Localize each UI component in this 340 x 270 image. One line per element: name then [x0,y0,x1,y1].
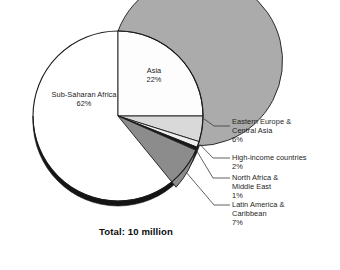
slice-label-eastern-europe-line2: Central Asia [232,126,272,135]
slice-label-sub-saharan-africa-pct: 62% [32,99,136,108]
slice-label-latin-america-line2: Caribbean [232,209,267,218]
slice-label-high-income-pct: 2% [232,162,307,171]
slice-label-north-africa-line1: North Africa & [232,173,278,182]
slice-label-latin-america-line1: Latin America & [232,200,285,209]
pie-chart-figure: Sub-Saharan Africa 62% Asia 22% Eastern … [0,0,340,270]
leader-line-north-africa [197,151,231,179]
slice-label-sub-saharan-africa: Sub-Saharan Africa 62% [32,90,136,108]
total-caption: Total: 10 million [99,226,173,237]
slice-label-eastern-europe-line1: Eastern Europe & [232,117,291,126]
slice-label-north-africa-line2: Middle East [232,182,271,191]
slice-label-asia-name: Asia [147,66,162,75]
slice-label-eastern-europe-central-asia: Eastern Europe & Central Asia 6% [232,117,291,145]
slice-label-eastern-europe-pct: 6% [232,135,291,144]
slice-label-asia-pct: 22% [126,75,182,84]
leader-line-latin-america [186,172,230,205]
slice-label-asia: Asia 22% [126,66,182,84]
slice-label-latin-america-pct: 7% [232,218,285,227]
slice-label-north-africa-middle-east: North Africa & Middle East 1% [232,173,278,201]
slice-label-high-income-line1: High-income countries [232,153,307,162]
slice-label-sub-saharan-africa-name: Sub-Saharan Africa [52,90,117,99]
slice-label-high-income-countries: High-income countries 2% [232,153,307,171]
slice-label-latin-america-caribbean: Latin America & Caribbean 7% [232,200,285,228]
